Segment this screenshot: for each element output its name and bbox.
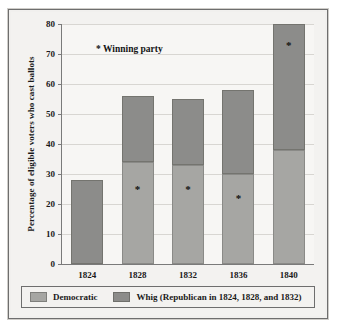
bar-segment-1832-whig[interactable] <box>172 99 204 165</box>
x-tick-label-1832: 1832 <box>172 270 204 280</box>
y-tick-label: 50 <box>46 110 55 119</box>
bar-segment-1836-whig[interactable] <box>222 90 254 174</box>
legend-label-dem: Democratic <box>53 292 97 302</box>
bar-segment-1828-whig[interactable] <box>122 96 154 162</box>
y-tick-label: 80 <box>46 20 55 29</box>
x-tick-label-1828: 1828 <box>122 270 154 280</box>
y-axis-title: Percentage of eligible voters who cast b… <box>23 24 39 264</box>
bar-segment-1828-democratic[interactable] <box>122 162 154 264</box>
y-tick-label: 60 <box>46 80 55 89</box>
bar-group-1832[interactable]: *1832 <box>172 24 204 264</box>
legend-entry-whig[interactable]: Whig (Republican in 1824, 1828, and 1832… <box>113 292 301 302</box>
bar-group-1836[interactable]: *1836 <box>222 24 254 264</box>
bar-segment-1836-democratic[interactable] <box>222 174 254 264</box>
y-tick-label: 20 <box>46 200 55 209</box>
y-tick-mark <box>58 264 62 265</box>
chart-figure-inner: Percentage of eligible voters who cast b… <box>11 12 325 316</box>
bar-group-1824[interactable]: 1824 <box>71 24 103 264</box>
y-tick-mark <box>58 24 62 25</box>
y-tick-mark <box>58 144 62 145</box>
y-tick-label: 10 <box>46 230 55 239</box>
bar-segment-1824-whig[interactable] <box>71 180 103 264</box>
x-tick-label-1836: 1836 <box>222 270 254 280</box>
y-axis-title-text: Percentage of eligible voters who cast b… <box>26 56 36 231</box>
legend-label-whig: Whig (Republican in 1824, 1828, and 1832… <box>136 292 301 302</box>
y-tick-mark <box>58 174 62 175</box>
y-tick-label: 40 <box>46 140 55 149</box>
y-tick-mark <box>58 114 62 115</box>
plot-area: 01020304050607080 * Winning party 1824*1… <box>61 24 314 265</box>
y-tick-label: 30 <box>46 170 55 179</box>
chart-legend: DemocraticWhig (Republican in 1824, 1828… <box>21 286 315 308</box>
chart-figure-frame: Percentage of eligible voters who cast b… <box>8 9 328 319</box>
bar-segment-1832-democratic[interactable] <box>172 165 204 264</box>
legend-swatch-whig <box>113 292 130 302</box>
bar-segment-1840-democratic[interactable] <box>273 150 305 264</box>
y-tick-label: 70 <box>46 50 55 59</box>
legend-entry-dem[interactable]: Democratic <box>30 292 97 302</box>
bar-group-1840[interactable]: *1840 <box>273 24 305 264</box>
bar-group-1828[interactable]: *1828 <box>122 24 154 264</box>
x-tick-label-1840: 1840 <box>273 270 305 280</box>
y-tick-mark <box>58 234 62 235</box>
y-tick-mark <box>58 84 62 85</box>
legend-swatch-dem <box>30 292 47 302</box>
x-tick-label-1824: 1824 <box>71 270 103 280</box>
y-tick-mark <box>58 204 62 205</box>
y-tick-mark <box>58 54 62 55</box>
y-tick-label: 0 <box>51 260 56 269</box>
